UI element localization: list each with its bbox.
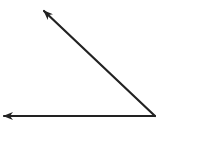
rays bbox=[4, 11, 155, 116]
angle-figure bbox=[0, 0, 199, 147]
angle-diagram bbox=[0, 0, 199, 147]
upper-ray-line bbox=[44, 11, 155, 116]
